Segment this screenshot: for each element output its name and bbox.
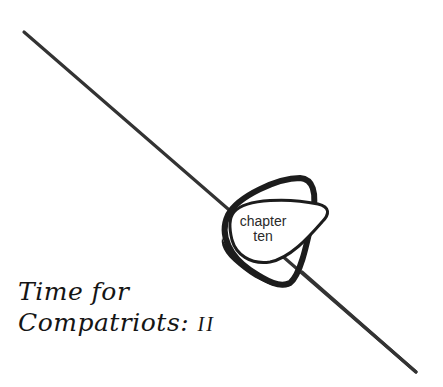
chapter-word: chapter [222,214,304,229]
title-line-2: Compatriots: II [18,307,215,340]
title-numeral: II [198,313,215,335]
chapter-label: chapter ten [222,214,304,244]
diagonal-rule-lower [302,272,416,372]
title-line-1: Time for [18,276,215,307]
title-main: Compatriots: [18,308,189,337]
chapter-title: Time for Compatriots: II [18,276,215,340]
chapter-number: ten [222,229,304,244]
